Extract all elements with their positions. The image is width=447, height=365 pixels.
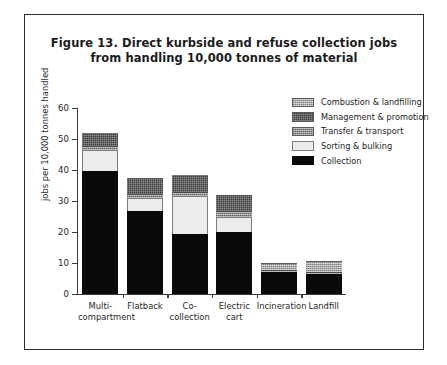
legend-swatch — [292, 112, 314, 122]
x-axis-tick-label-line: Co-collection — [167, 301, 212, 322]
legend-label: Sorting & bulking — [321, 141, 392, 151]
y-axis-tick-label: 40 — [58, 165, 69, 175]
y-axis-tick-label: 0 — [64, 289, 69, 299]
y-axis-tick-label: 30 — [58, 196, 69, 206]
bar-stack[interactable] — [127, 178, 163, 294]
bar-segment[interactable] — [82, 171, 118, 294]
y-axis-tick-label: 50 — [58, 134, 69, 144]
x-axis-tick-label: Electriccart — [212, 301, 257, 322]
legend-item[interactable]: Management & promotion — [292, 110, 429, 125]
x-axis-tick — [257, 294, 258, 298]
chart-legend: Combustion & landfillingManagement & pro… — [292, 95, 429, 168]
bar-segment[interactable] — [127, 198, 163, 211]
legend-item[interactable]: Transfer & transport — [292, 124, 429, 139]
bar-segment[interactable] — [216, 232, 252, 294]
bar-segment[interactable] — [216, 195, 252, 211]
x-axis-tick — [167, 294, 168, 298]
bar-segment[interactable] — [306, 261, 342, 272]
bar-segment[interactable] — [172, 175, 208, 192]
legend-label: Combustion & landfilling — [321, 97, 422, 107]
legend-label: Transfer & transport — [321, 126, 403, 136]
legend-item[interactable]: Sorting & bulking — [292, 139, 429, 154]
bar-stack[interactable] — [216, 195, 252, 294]
bar-stack[interactable] — [306, 261, 342, 294]
figure-title-line-1: Figure 13. Direct kurbside and refuse co… — [51, 36, 397, 50]
x-axis-tick-label: Landfill — [301, 301, 346, 312]
figure-title: Figure 13. Direct kurbside and refuse co… — [40, 36, 408, 66]
bar-segment[interactable] — [127, 211, 163, 294]
legend-item[interactable]: Combustion & landfilling — [292, 95, 429, 110]
legend-swatch — [292, 156, 314, 166]
x-axis-tick-label: Co-collection — [167, 301, 212, 322]
x-axis-tick — [123, 294, 124, 298]
bar-segment[interactable] — [82, 150, 118, 170]
bar-segment[interactable] — [261, 272, 297, 294]
x-axis-tick-label-line: Landfill — [301, 301, 346, 312]
y-axis-tick-label: 20 — [58, 227, 69, 237]
x-axis-tick-label-line: Flatback — [123, 301, 168, 312]
legend-item[interactable]: Collection — [292, 153, 429, 168]
bar-segment[interactable] — [172, 196, 208, 234]
y-axis-tick-label: 10 — [58, 258, 69, 268]
y-axis-tick — [72, 294, 78, 295]
x-axis-tick-label-line: compartment — [78, 312, 123, 323]
x-axis-tick-label: Multi-compartment — [78, 301, 123, 322]
bar-stack[interactable] — [172, 175, 208, 294]
x-axis-tick-label: Flatback — [123, 301, 168, 312]
bar-segment[interactable] — [216, 217, 252, 233]
bar-stack[interactable] — [261, 263, 297, 294]
x-axis-tick-label-line: Electric — [212, 301, 257, 312]
bar-segment[interactable] — [261, 263, 297, 270]
legend-swatch — [292, 98, 314, 108]
x-axis-tick-label-line: Multi- — [78, 301, 123, 312]
bar-stack[interactable] — [82, 133, 118, 294]
bar-segment[interactable] — [127, 178, 163, 194]
x-axis-tick — [301, 294, 302, 298]
x-axis-tick-label: Incineration — [257, 301, 302, 312]
figure-page: Figure 13. Direct kurbside and refuse co… — [0, 0, 447, 365]
figure-title-line-2: from handling 10,000 tonnes of material — [40, 51, 408, 66]
x-axis-tick-label-line: cart — [212, 312, 257, 323]
y-axis-title: jobs per 10,000 tonnes handled — [40, 68, 50, 201]
bar-segment[interactable] — [82, 133, 118, 146]
bar-segment[interactable] — [306, 274, 342, 294]
bar-segment[interactable] — [172, 234, 208, 294]
legend-swatch — [292, 127, 314, 137]
legend-swatch — [292, 141, 314, 151]
x-axis-tick — [212, 294, 213, 298]
y-axis-tick-label: 60 — [58, 103, 69, 113]
legend-label: Management & promotion — [321, 112, 429, 122]
legend-label: Collection — [321, 156, 362, 166]
x-axis-tick-label-line: Incineration — [257, 301, 302, 312]
